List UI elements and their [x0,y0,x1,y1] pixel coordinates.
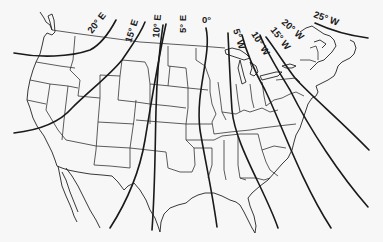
isogonic-label: 0° [202,14,211,25]
isogonic-label: 5° E [177,15,188,33]
isogonic-label: 10° E [150,14,163,38]
map-background [0,0,383,242]
isogonic-map: 20° E15° E10° E5° E0°5° W10° W15° W20° W… [0,0,383,242]
